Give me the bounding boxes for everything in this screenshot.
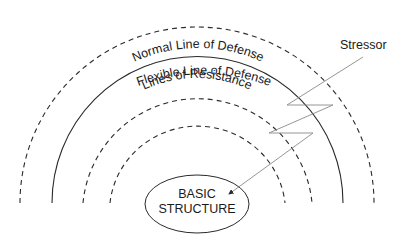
stressor-label: Stressor (340, 38, 387, 52)
normal-line-label: Normal Line of Defense (130, 37, 266, 64)
basic-structure-line1: BASIC (178, 187, 216, 201)
neuman-diagram: Flexible Line of Defense Normal Line of … (0, 0, 400, 241)
flexible-line-of-defense-ring (20, 27, 374, 203)
basic-structure-line2: STRUCTURE (158, 202, 235, 216)
